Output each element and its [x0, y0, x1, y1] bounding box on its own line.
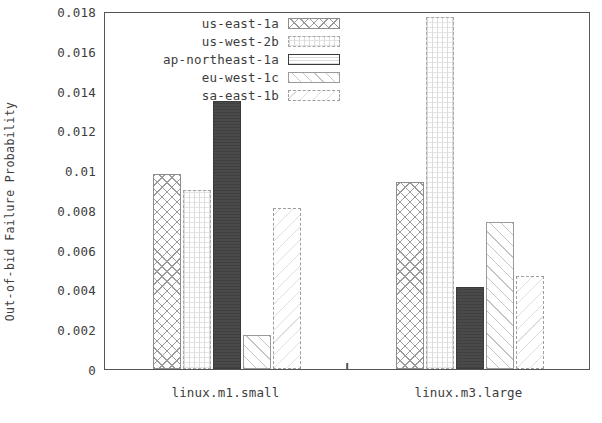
bar	[153, 174, 181, 369]
y-tick-label: 0.006	[22, 243, 96, 258]
bar	[426, 17, 454, 369]
legend-item: us-west-2b	[150, 34, 340, 49]
bar	[456, 287, 484, 369]
y-tick-label: 0.004	[22, 283, 96, 298]
y-tick-label: 0	[22, 363, 96, 378]
chart-legend: us-east-1aus-west-2bap-northeast-1aeu-we…	[150, 16, 340, 103]
x-tick-mark	[346, 363, 348, 370]
legend-label: sa-east-1b	[202, 88, 288, 103]
legend-label: us-west-2b	[202, 34, 288, 49]
x-tick-label: linux.m3.large	[414, 385, 522, 400]
legend-swatch	[288, 72, 340, 83]
y-tick-label: 0.012	[22, 124, 96, 139]
legend-item: us-east-1a	[150, 16, 340, 31]
legend-label: eu-west-1c	[202, 70, 288, 85]
y-tick-label: 0.016	[22, 44, 96, 59]
bar	[516, 276, 544, 369]
legend-label: ap-northeast-1a	[163, 52, 288, 67]
x-tick-label: linux.m1.small	[171, 385, 279, 400]
y-tick-label: 0.014	[22, 84, 96, 99]
y-tick-label: 0.01	[22, 164, 96, 179]
bar	[396, 182, 424, 369]
bar	[243, 335, 271, 369]
legend-item: ap-northeast-1a	[150, 52, 340, 67]
chart-root: Out-of-bid Failure Probability 0.0180.01…	[0, 0, 602, 423]
bar	[273, 208, 301, 369]
legend-swatch	[288, 90, 340, 101]
y-tick-label: 0.008	[22, 203, 96, 218]
y-axis-title: Out-of-bid Failure Probability	[0, 0, 20, 423]
bar	[213, 101, 241, 370]
legend-label: us-east-1a	[202, 16, 288, 31]
bar	[183, 190, 211, 369]
legend-item: eu-west-1c	[150, 70, 340, 85]
bar	[486, 222, 514, 369]
legend-item: sa-east-1b	[150, 88, 340, 103]
y-tick-label: 0.002	[22, 323, 96, 338]
y-tick-label: 0.018	[22, 5, 96, 20]
legend-swatch	[288, 36, 340, 47]
legend-swatch	[288, 54, 340, 65]
legend-swatch	[288, 18, 340, 29]
